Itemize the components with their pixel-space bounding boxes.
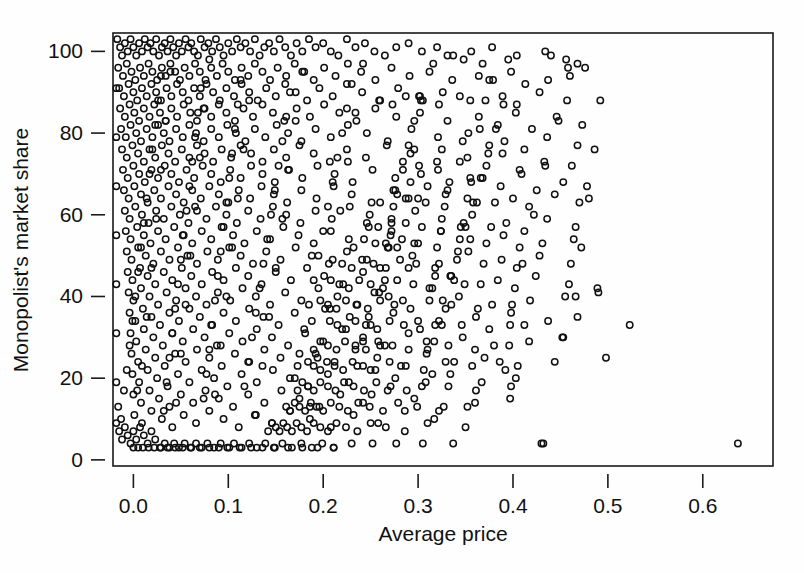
y-tick-label: 0 xyxy=(71,448,83,471)
y-axis-title: Monopolist's market share xyxy=(9,128,32,372)
x-tick-label: 0.5 xyxy=(593,494,622,517)
y-tick-label: 20 xyxy=(60,366,83,389)
y-tick-label: 40 xyxy=(60,284,83,307)
y-tick-label: 100 xyxy=(48,39,83,62)
y-tick-label: 60 xyxy=(60,203,83,226)
scatter-plot-figure: 0.00.10.20.30.40.50.6 020406080100 Avera… xyxy=(0,0,804,573)
x-axis-title: Average price xyxy=(378,522,507,545)
x-tick-label: 0.3 xyxy=(403,494,432,517)
x-tick-label: 0.2 xyxy=(309,494,338,517)
plot-canvas: 0.00.10.20.30.40.50.6 020406080100 Avera… xyxy=(0,0,804,573)
x-tick-label: 0.1 xyxy=(214,494,243,517)
x-tick-label: 0.0 xyxy=(119,494,148,517)
x-tick-label: 0.4 xyxy=(498,494,528,517)
y-tick-label: 80 xyxy=(60,121,83,144)
x-tick-label: 0.6 xyxy=(688,494,717,517)
